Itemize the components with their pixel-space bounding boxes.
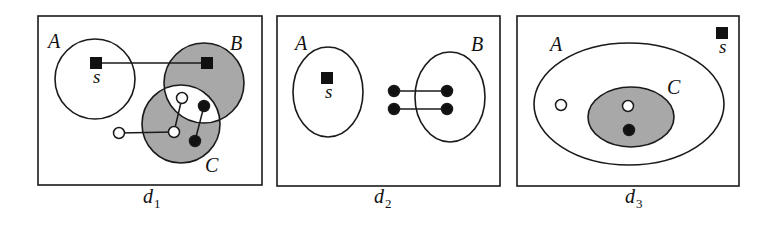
set-a-label: A	[548, 33, 563, 55]
filled-node	[389, 86, 400, 97]
source-label: s	[719, 36, 726, 57]
panel-d3: ACsd3	[517, 16, 739, 211]
source-label: s	[93, 66, 100, 87]
filled-node	[199, 101, 210, 112]
set-b-label: B	[230, 32, 242, 54]
set-c-label: C	[205, 154, 219, 176]
set-c-label: C	[667, 76, 681, 98]
source-label: s	[325, 81, 332, 102]
set-a-label: A	[46, 30, 61, 52]
panel-caption: d	[374, 185, 385, 207]
panel-d2: ABsd2	[277, 16, 500, 211]
graph-edge	[119, 132, 174, 133]
panel-caption: d	[625, 185, 636, 207]
filled-node	[389, 104, 400, 115]
panel-d1: ABCsd1	[38, 16, 262, 211]
panel-caption-subscript: 1	[154, 196, 161, 211]
hollow-node	[623, 101, 634, 112]
panel-caption-subscript: 3	[636, 196, 643, 211]
filled-node	[442, 104, 453, 115]
panel-caption-subscript: 2	[385, 196, 392, 211]
set-diagram-figure: ABCsd1 ABsd2 ACsd3	[0, 0, 773, 227]
panel-frame	[277, 16, 500, 186]
square-node	[201, 57, 213, 69]
set-a-label: A	[293, 32, 308, 54]
filled-node	[442, 86, 453, 97]
filled-node	[190, 136, 201, 147]
hollow-node	[556, 100, 567, 111]
filled-node	[624, 125, 635, 136]
hollow-node	[114, 128, 125, 139]
hollow-node	[169, 127, 180, 138]
panel-caption: d	[143, 185, 154, 207]
hollow-node	[177, 93, 188, 104]
set-b-label: B	[471, 33, 483, 55]
